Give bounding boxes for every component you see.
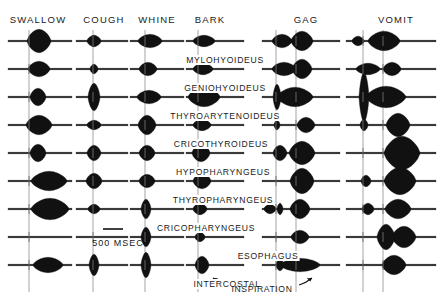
trace-line <box>76 35 128 46</box>
row-label-cricothyroideus: CRICOTHYROIDEUS <box>173 139 270 149</box>
trace-whine-intercostal <box>130 252 184 277</box>
column-header-gag: GAG <box>294 14 319 25</box>
trace-swallow-mylohyoideus <box>8 29 72 52</box>
trace-bark-mylohyoideus <box>186 35 244 46</box>
trace-vomit-geniohyoideus <box>346 62 436 75</box>
trace-bark-esophagus <box>186 232 244 241</box>
trace-line <box>76 64 128 73</box>
emg-plot-surface <box>0 0 444 302</box>
trace-cough-geniohyoideus <box>76 64 128 73</box>
trace-whine-mylohyoideus <box>130 34 184 47</box>
column-header-swallow: SWALLOW <box>10 14 67 25</box>
trace-line <box>8 257 72 272</box>
trace-bark-geniohyoideus <box>186 63 244 74</box>
row-label-hypopharyngeus: HYPOPHARYNGEUS <box>175 167 271 177</box>
inspiration-label: INSPIRATION <box>232 284 293 294</box>
trace-line <box>262 59 340 78</box>
trace-gag-hypopharyngeus <box>262 141 340 164</box>
row-label-thyroarytenoideus: THYROARYTENOIDEUS <box>169 111 281 121</box>
trace-line <box>346 136 436 169</box>
row-label-geniohyoideus: GENIOHYOIDEUS <box>183 83 267 93</box>
trace-swallow-hypopharyngeus <box>8 144 72 161</box>
trace-vomit-thyropharyngeus <box>346 167 436 194</box>
trace-line <box>186 256 244 273</box>
trace-line <box>186 35 244 46</box>
column-header-whine: WHINE <box>138 14 176 25</box>
trace-line <box>130 62 184 75</box>
trace-line <box>76 120 128 129</box>
trace-line <box>76 254 128 275</box>
trace-gag-mylohyoideus <box>262 31 340 50</box>
row-label-cricopharyngeus: CRICOPHARYNGEUS <box>156 223 256 233</box>
emg-figure: SWALLOWCOUGHWHINEBARKGAGVOMITMYLOHYOIDEU… <box>0 0 444 302</box>
trace-line <box>346 199 436 218</box>
trace-swallow-geniohyoideus <box>8 61 72 76</box>
trace-bark-cricopharyngeus <box>186 203 244 214</box>
trace-column-bark <box>186 35 244 273</box>
trace-line <box>262 230 340 243</box>
trace-gag-geniohyoideus <box>262 59 340 78</box>
trace-bark-intercostal <box>186 256 244 273</box>
trace-cough-mylohyoideus <box>76 35 128 46</box>
trace-line <box>8 88 72 105</box>
trace-whine-thyroarytenoideus <box>130 90 184 103</box>
trace-vomit-hypopharyngeus <box>346 136 436 169</box>
trace-gag-thyropharyngeus <box>262 168 340 193</box>
trace-line <box>262 141 340 164</box>
trace-line <box>130 252 184 277</box>
trace-line <box>8 171 72 190</box>
scale-bar-label: 500 MSEC <box>92 238 144 248</box>
trace-swallow-cricopharyngeus <box>8 198 72 219</box>
trace-line <box>8 144 72 161</box>
trace-line <box>346 62 436 75</box>
trace-line <box>262 84 340 109</box>
trace-line <box>186 232 244 241</box>
row-label-thyropharyngeus: THYROPHARYNGEUS <box>172 195 275 205</box>
trace-vomit-mylohyoideus <box>346 31 436 50</box>
trace-cough-thyroarytenoideus <box>76 83 128 110</box>
trace-line <box>8 236 72 237</box>
row-label-esophagus: ESOPHAGUS <box>237 251 300 261</box>
trace-line <box>130 34 184 47</box>
row-label-mylohyoideus: MYLOHYOIDEUS <box>185 55 265 65</box>
trace-line <box>8 61 72 76</box>
trace-line <box>76 83 128 110</box>
trace-swallow-thyropharyngeus <box>8 171 72 190</box>
trace-line <box>130 90 184 103</box>
trace-line <box>186 119 244 130</box>
trace-line <box>76 173 128 188</box>
trace-line <box>346 167 436 194</box>
trace-bark-cricothyroideus <box>186 119 244 130</box>
trace-vomit-cricothyroideus <box>346 113 436 136</box>
trace-whine-geniohyoideus <box>130 62 184 75</box>
column-header-bark: BARK <box>195 14 226 25</box>
trace-cough-thyropharyngeus <box>76 173 128 188</box>
trace-line <box>76 145 128 160</box>
trace-vomit-thyroarytenoideus <box>346 72 436 121</box>
column-header-cough: COUGH <box>83 14 124 25</box>
trace-line <box>76 204 128 213</box>
trace-cough-intercostal <box>76 254 128 275</box>
trace-line <box>346 224 436 249</box>
trace-cough-hypopharyngeus <box>76 145 128 160</box>
trace-line <box>8 29 72 52</box>
trace-swallow-cricothyroideus <box>8 115 72 134</box>
trace-line <box>346 113 436 136</box>
trace-line <box>346 72 436 121</box>
trace-column-swallow <box>8 29 72 272</box>
trace-cough-cricothyroideus <box>76 120 128 129</box>
trace-vomit-intercostal <box>346 255 436 274</box>
trace-gag-esophagus <box>262 230 340 243</box>
trace-line <box>346 255 436 274</box>
trace-cough-cricopharyngeus <box>76 204 128 213</box>
column-header-vomit: VOMIT <box>378 14 414 25</box>
trace-line <box>346 31 436 50</box>
trace-line <box>186 203 244 214</box>
trace-line <box>8 198 72 219</box>
trace-line <box>262 31 340 50</box>
trace-line <box>186 63 244 74</box>
trace-swallow-esophagus <box>8 236 72 237</box>
trace-swallow-thyroarytenoideus <box>8 88 72 105</box>
trace-gag-thyroarytenoideus <box>262 84 340 109</box>
trace-swallow-intercostal <box>8 257 72 272</box>
